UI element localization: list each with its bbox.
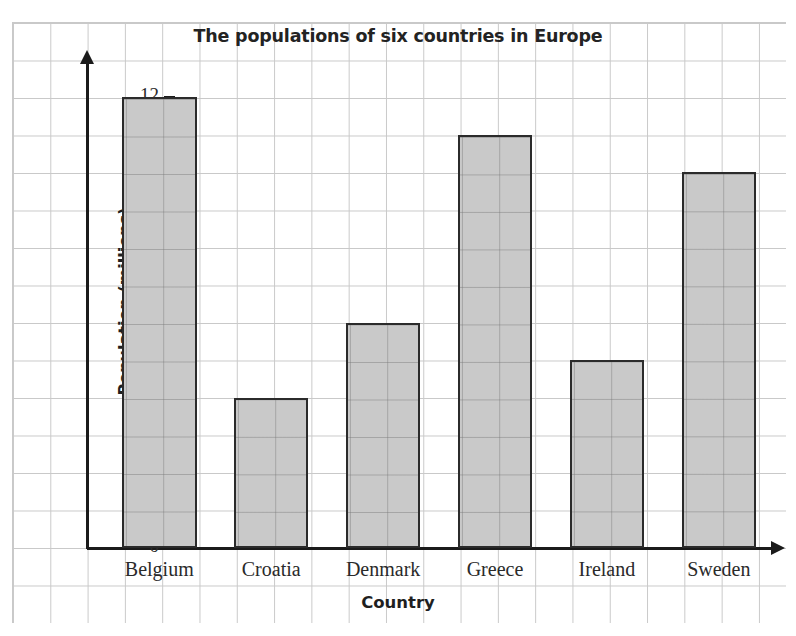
x-tick-label-sweden: Sweden [660, 558, 779, 581]
bar-grid-overlay [348, 325, 419, 547]
bar-denmark [346, 323, 421, 549]
x-tick-label-ireland: Ireland [548, 558, 667, 581]
bar-croatia [234, 398, 309, 548]
x-tick-label-greece: Greece [436, 558, 555, 581]
bar-grid-overlay [460, 137, 531, 546]
bar-sweden [682, 172, 757, 548]
bar-greece [458, 135, 533, 548]
bar-grid-overlay [236, 400, 307, 546]
x-tick-label-belgium: Belgium [100, 558, 219, 581]
bar-belgium [122, 97, 197, 548]
x-tick-label-croatia: Croatia [212, 558, 331, 581]
bar-grid-overlay [684, 174, 755, 546]
x-axis-title: Country [0, 593, 796, 612]
bar-ireland [570, 360, 645, 548]
bar-chart-page: The populations of six countries in Euro… [0, 0, 796, 636]
bar-grid-overlay [572, 362, 643, 546]
x-tick-label-denmark: Denmark [324, 558, 443, 581]
bar-grid-overlay [124, 99, 195, 546]
plot-area: Population (millions) 024681012 [87, 97, 785, 548]
chart-title: The populations of six countries in Euro… [0, 26, 796, 46]
